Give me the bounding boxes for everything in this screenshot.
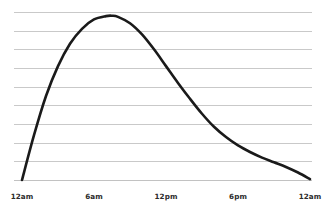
chart-figure: 12am6am12pm6pm12am (0, 0, 333, 210)
x-tick-label: 12pm (154, 193, 177, 200)
chart-canvas (0, 0, 333, 210)
x-tick-label: 12am (11, 193, 34, 200)
gridlines-group (14, 13, 312, 162)
x-tick-label: 12am (299, 193, 322, 200)
x-tick-label: 6am (85, 193, 103, 200)
series-line (22, 16, 310, 180)
x-tick-label: 6pm (229, 193, 247, 200)
